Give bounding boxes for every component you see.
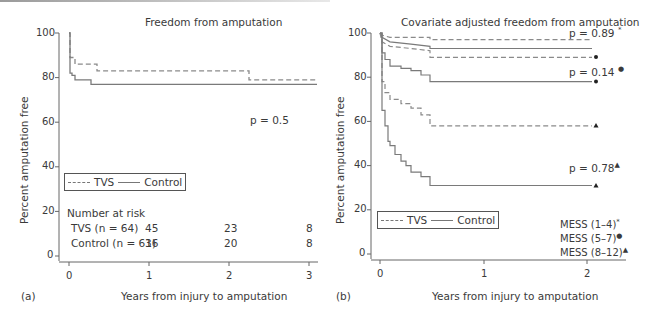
pvalue-mess2: p = 0.14 ● (569, 65, 624, 78)
pvalue-mess3: p = 0.78▲ (569, 161, 620, 174)
mess-group-1: MESS (1–4)* (560, 218, 620, 230)
risk-tvs-1: 45 (145, 222, 158, 234)
risk-control-2: 20 (224, 237, 237, 249)
panel-b-ytick: 0 (359, 247, 365, 258)
mess-group-2: MESS (5–7)● (560, 232, 622, 244)
panel-a-ytick: 100 (36, 27, 55, 38)
panel-b-ytick: 60 (354, 115, 367, 126)
panel-b-xtick: 0 (377, 268, 383, 279)
risk-control-3: 8 (306, 237, 313, 249)
panel-b-ytick: 20 (354, 203, 367, 214)
panel-b-xlabel: Years from injury to amputation (432, 290, 598, 302)
panel-a-ytick: 0 (47, 249, 53, 260)
panel-a-ytick: 80 (42, 71, 55, 82)
solid-line-icon (118, 182, 140, 183)
curve-b-tvs-mess1 (380, 33, 592, 40)
panel-b-ytick: 100 (348, 27, 367, 38)
panel-b-ytick: 40 (354, 159, 367, 170)
panel-a-xtick: 0 (66, 270, 72, 281)
panel-a-ytick: 40 (42, 160, 55, 171)
panel-a-ytick: 20 (42, 205, 55, 216)
legend-control-label: Control (144, 176, 182, 188)
panel-a-label: (a) (21, 290, 36, 302)
panel-b-ytick: 80 (354, 71, 367, 82)
panel-a-xtick: 3 (306, 270, 312, 281)
mess-group-3: MESS (8–12)▲ (560, 246, 628, 258)
curve-a-tvs (69, 33, 317, 80)
panel-a-pvalue: p = 0.5 (250, 114, 289, 126)
legend-tvs-label: TVS (407, 214, 427, 226)
panel-b-xtick: 2 (584, 268, 590, 279)
risk-control-label: Control (n = 61) (71, 237, 156, 249)
plot-canvas (0, 0, 646, 316)
panel-a-xtick: 1 (146, 270, 152, 281)
curve-a-control (69, 33, 317, 84)
pvalue-mess1: p = 0.89 * (569, 26, 621, 39)
risk-header: Number at risk (67, 207, 145, 219)
solid-line-icon (431, 220, 453, 221)
panel-a-ylabel: Percent amputation free (18, 96, 30, 224)
legend-control-label: Control (457, 214, 495, 226)
panel-a-xtick: 2 (226, 270, 232, 281)
panel-a-xlabel: Years from injury to amputation (121, 290, 287, 302)
curve-b-control-mess3 (380, 33, 592, 186)
dashed-line-icon (381, 220, 403, 221)
curve-b-tvs-mess2 (380, 33, 592, 57)
panel-b-ylabel: Percent amputation free (334, 96, 346, 224)
risk-tvs-label: TVS (n = 64) (71, 222, 138, 234)
panel-b-legend: TVS Control (377, 211, 499, 229)
curve-b-control-mess1 (380, 33, 592, 49)
panel-a-ytick: 60 (42, 116, 55, 127)
dashed-line-icon (68, 182, 90, 183)
panel-a-title: Freedom from amputation (145, 16, 282, 28)
panel-b-label: (b) (336, 290, 351, 302)
legend-tvs-label: TVS (94, 176, 114, 188)
curve-b-tvs-mess3 (380, 33, 592, 126)
risk-tvs-3: 8 (306, 222, 313, 234)
risk-tvs-2: 23 (224, 222, 237, 234)
panel-a-legend: TVS Control (64, 173, 186, 191)
risk-control-1: 36 (145, 237, 158, 249)
panel-b-xtick: 1 (481, 268, 487, 279)
